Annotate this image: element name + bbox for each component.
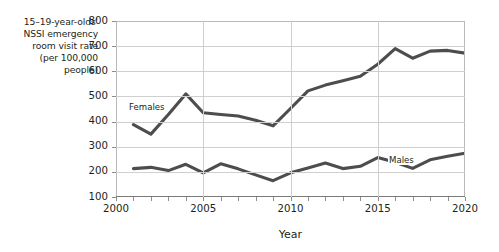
y-tick-label: 500 (82, 90, 108, 101)
series-label-females: Females (128, 102, 166, 112)
x-tick-mark (308, 197, 309, 201)
x-tick-label: 2020 (445, 203, 485, 214)
x-tick-mark (151, 197, 152, 201)
x-tick-mark (168, 197, 169, 201)
y-tick-label: 600 (82, 65, 108, 76)
x-tick-mark (343, 197, 344, 201)
x-tick-label: 2010 (271, 203, 311, 214)
y-axis-title-line-4: (per 100,000 (6, 52, 98, 64)
x-tick-mark (203, 197, 204, 201)
y-tick-label: 400 (82, 115, 108, 126)
y-tick-label: 300 (82, 140, 108, 151)
y-tick-label: 100 (82, 191, 108, 202)
x-axis-title: Year (116, 228, 465, 241)
x-tick-mark (395, 197, 396, 201)
x-tick-mark (360, 197, 361, 201)
x-tick-mark (291, 197, 292, 201)
chart-figure: 15–19-year-olds' NSSI emergency room vis… (0, 0, 499, 252)
y-tick-label: 700 (82, 40, 108, 51)
x-tick-mark (325, 197, 326, 201)
x-tick-mark (256, 197, 257, 201)
series-label-males: Males (388, 155, 415, 165)
x-tick-label: 2005 (183, 203, 223, 214)
x-tick-label: 2000 (96, 203, 136, 214)
gridline-vertical (291, 21, 292, 197)
x-tick-mark (430, 197, 431, 201)
plot-border-right (464, 21, 465, 197)
gridline-vertical (378, 21, 379, 197)
y-tick-label: 200 (82, 165, 108, 176)
x-tick-mark (238, 197, 239, 201)
gridline-vertical (203, 21, 204, 197)
x-tick-mark (413, 197, 414, 201)
x-tick-mark (116, 197, 117, 201)
y-tick-label: 800 (82, 15, 108, 26)
x-tick-label: 2015 (358, 203, 398, 214)
x-tick-mark (448, 197, 449, 201)
x-tick-mark (221, 197, 222, 201)
plot-area (116, 21, 465, 197)
plot-border-left (116, 21, 117, 197)
y-axis-title-line-2: NSSI emergency (6, 28, 98, 40)
x-tick-mark (465, 197, 466, 201)
series-line-males (133, 153, 465, 180)
x-tick-mark (133, 197, 134, 201)
x-tick-mark (378, 197, 379, 201)
x-tick-mark (273, 197, 274, 201)
x-tick-mark (186, 197, 187, 201)
